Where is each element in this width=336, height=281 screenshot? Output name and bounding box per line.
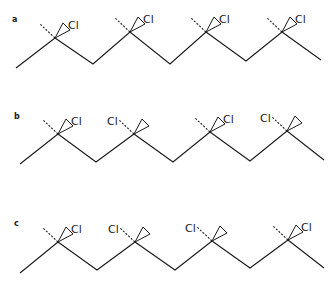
panel-label: b	[14, 112, 20, 121]
hashed-bond	[40, 24, 55, 38]
chlorine-atom-label: Cl	[185, 222, 196, 235]
hashed-bond	[191, 18, 206, 32]
wedge-bond	[134, 119, 149, 134]
hashed-bond	[115, 18, 130, 32]
panel-label: c	[14, 219, 19, 228]
hashed-bond	[119, 120, 134, 134]
carbon-backbone	[20, 131, 324, 164]
chlorine-atom-label: Cl	[295, 13, 306, 26]
chlorine-atom-label: Cl	[71, 115, 82, 128]
panel-c: cClClClCl	[14, 219, 324, 273]
carbon-backbone	[20, 240, 324, 273]
pvc-tacticity-diagram: aClClClClbClClClClcClClClCl	[0, 0, 336, 281]
hashed-bond	[273, 226, 288, 240]
hashed-bond	[197, 227, 212, 241]
hashed-bond	[267, 18, 282, 32]
chlorine-atom-label: Cl	[108, 223, 119, 236]
wedge-bond	[287, 116, 302, 131]
chlorine-atom-label: Cl	[219, 13, 230, 26]
wedge-bond	[135, 227, 150, 242]
panel-b: bClClClCl	[14, 112, 324, 164]
hashed-bond	[120, 228, 135, 242]
hashed-bond	[43, 120, 58, 134]
chlorine-atom-label: Cl	[107, 115, 118, 128]
chlorine-atom-label: Cl	[71, 223, 82, 236]
panel-a: aClClClCl	[12, 13, 321, 68]
chlorine-atom-label: Cl	[143, 13, 154, 26]
chlorine-atom-label: Cl	[68, 19, 79, 32]
chlorine-atom-label: Cl	[301, 221, 312, 234]
hashed-bond	[195, 118, 210, 132]
carbon-backbone	[16, 32, 321, 68]
hashed-bond	[272, 117, 287, 131]
chlorine-atom-label: Cl	[260, 112, 271, 125]
hashed-bond	[43, 228, 58, 242]
chlorine-atom-label: Cl	[223, 113, 234, 126]
panel-label: a	[12, 15, 17, 24]
wedge-bond	[212, 226, 227, 241]
